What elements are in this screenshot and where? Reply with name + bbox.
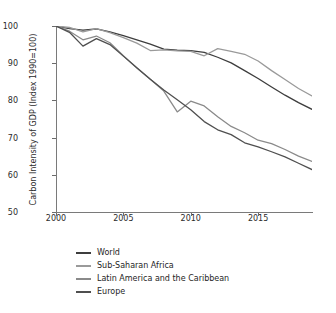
legend-color-swatch [76,265,91,267]
series-lines-svg [56,26,312,212]
legend-label: World [97,248,120,257]
legend-color-swatch [76,291,91,293]
legend-item[interactable]: Latin America and the Caribbean [76,272,326,285]
plot-area-wrapper: Carbon Intensity of GDP (Index 1990=100)… [0,0,336,240]
y-tick-label: 100 [0,22,18,31]
chart-figure: Carbon Intensity of GDP (Index 1990=100)… [0,0,336,313]
series-line [56,26,312,161]
legend-item[interactable]: Europe [76,285,326,298]
y-tick-label: 90 [0,59,18,68]
series-line [56,26,312,109]
legend-label: Europe [97,287,125,296]
legend-label: Sub-Saharan Africa [97,261,174,270]
x-axis-line [56,212,313,213]
legend-label: Latin America and the Caribbean [97,274,229,283]
y-axis-title: Carbon Intensity of GDP (Index 1990=100) [29,25,38,215]
plot-lines-area [56,26,312,212]
y-tick-label: 80 [0,96,18,105]
legend-item[interactable]: Sub-Saharan Africa [76,259,326,272]
chart-legend: WorldSub-Saharan AfricaLatin America and… [76,246,326,298]
y-tick-label: 60 [0,170,18,179]
legend-item[interactable]: World [76,246,326,259]
legend-color-swatch [76,252,91,254]
series-line [56,26,312,170]
y-tick-label: 50 [0,208,18,217]
y-tick-label: 70 [0,133,18,142]
legend-color-swatch [76,278,91,280]
